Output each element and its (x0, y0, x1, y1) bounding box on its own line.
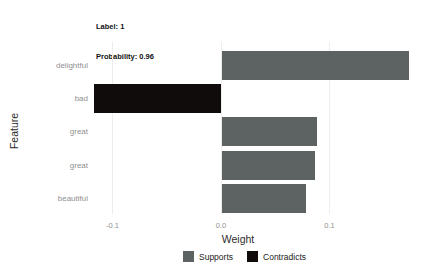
contradicts-swatch-icon (247, 251, 258, 262)
bar-bad (94, 84, 221, 113)
y-tick-label: delightful (28, 61, 88, 70)
legend-label-contradicts: Contradicts (263, 252, 306, 262)
x-tick-label: 0.1 (315, 221, 345, 230)
supports-swatch-icon (183, 251, 194, 262)
y-tick-label: great (28, 161, 88, 170)
legend: Supports Contradicts (0, 251, 429, 262)
bar-delightful (222, 51, 409, 80)
lime-explanation-chart: Label: 1 Probability: 0.96 Explanation F… (0, 0, 429, 273)
y-tick-label: bad (28, 94, 88, 103)
y-axis-title: Feature (8, 101, 20, 161)
gridline (112, 42, 113, 214)
y-tick-label: beautiful (28, 194, 88, 203)
x-tick-label: 0.0 (206, 221, 236, 230)
x-tick-label: -0.1 (98, 221, 128, 230)
bar-great (222, 151, 315, 180)
bar-beautiful (222, 184, 306, 213)
bar-great (222, 117, 317, 146)
legend-item-contradicts: Contradicts (247, 251, 306, 262)
y-tick-label: great (28, 127, 88, 136)
legend-item-supports: Supports (183, 251, 233, 262)
x-axis-title: Weight (188, 233, 288, 245)
legend-label-supports: Supports (199, 252, 233, 262)
